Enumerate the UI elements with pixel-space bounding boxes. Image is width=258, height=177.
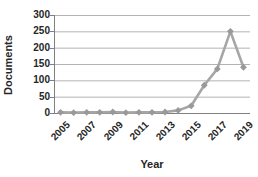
x-tick-label: 2013 [153, 119, 177, 143]
y-tick-mark [50, 48, 54, 49]
x-axis-title: Year [54, 158, 250, 170]
y-tick-mark [50, 31, 54, 32]
data-point-marker [149, 109, 156, 116]
y-tick-label: 250 [20, 25, 50, 37]
data-point-marker [122, 109, 129, 116]
x-tick-label: 2009 [101, 119, 125, 143]
series-line [61, 31, 244, 112]
data-point-marker [162, 109, 169, 116]
x-tick-label: 2017 [206, 119, 230, 143]
y-tick-mark [50, 64, 54, 65]
x-tick-label: 2011 [128, 119, 151, 142]
data-point-marker [175, 107, 182, 114]
x-tick-label: 2019 [232, 119, 256, 143]
y-tick-mark [50, 113, 54, 114]
data-point-marker [227, 28, 234, 35]
y-tick-label: 300 [20, 9, 50, 21]
plot-area [54, 15, 250, 113]
y-axis-title: Documents [2, 35, 14, 95]
data-point-marker [109, 109, 116, 116]
x-tick-label: 2005 [49, 119, 73, 143]
y-tick-label: 0 [20, 107, 50, 119]
data-point-marker [136, 109, 143, 116]
y-tick-mark [50, 80, 54, 81]
y-tick-label: 100 [20, 74, 50, 86]
data-point-marker [83, 109, 90, 116]
plot-svg [54, 15, 250, 113]
y-tick-mark [50, 15, 54, 16]
documents-by-year-chart: Documents Year 0501001502002503002005200… [0, 0, 258, 177]
x-tick-label: 2015 [179, 119, 203, 143]
y-tick-mark [50, 97, 54, 98]
data-point-marker [96, 109, 103, 116]
y-tick-label: 50 [20, 91, 50, 103]
y-tick-label: 200 [20, 42, 50, 54]
y-tick-label: 150 [20, 58, 50, 70]
data-point-marker [57, 109, 64, 116]
x-tick-label: 2007 [75, 119, 99, 143]
data-point-marker [70, 109, 77, 116]
